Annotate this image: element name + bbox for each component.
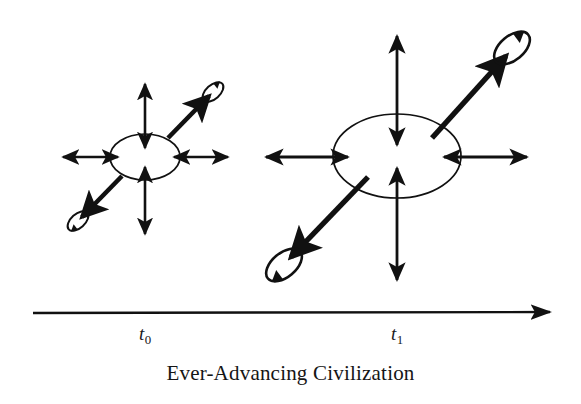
timeline-label-t0: t0	[139, 324, 151, 347]
t0-diagonal-arrow-downleft	[82, 176, 122, 217]
timeline-label-t1-subscript: 1	[396, 332, 403, 347]
t1-diagonal-arrow-upright	[432, 56, 506, 138]
t1-diagonal-arrow-downleft	[291, 177, 368, 257]
timeline-label-t1: t1	[391, 324, 403, 347]
figure-caption: Ever-Advancing Civilization	[0, 361, 581, 386]
stage-t0-group	[63, 78, 228, 234]
t1-satellite-rotation-tip-ur	[512, 26, 529, 43]
timeline-label-t0-subscript: 0	[144, 332, 151, 347]
t1-satellite-rotation-tip-ll	[267, 270, 284, 287]
timeline-axis-arrow	[33, 312, 550, 313]
figure-ever-advancing-civilization: t0 t1 Ever-Advancing Civilization	[0, 0, 581, 404]
t0-diagonal-arrow-upright	[168, 96, 209, 138]
stage-t1-group	[260, 25, 536, 287]
diagram-canvas	[0, 0, 581, 404]
